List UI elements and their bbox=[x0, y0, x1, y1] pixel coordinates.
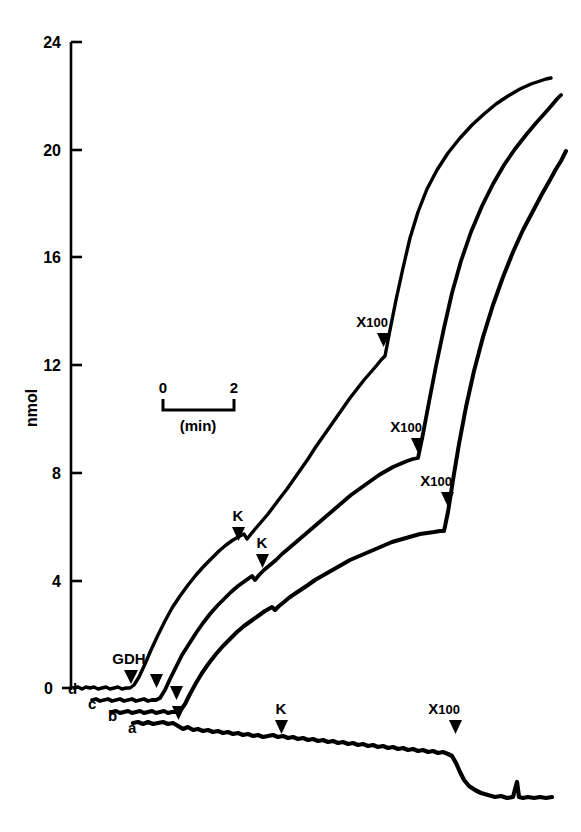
y-axis-title: nmol bbox=[23, 389, 40, 427]
x100-label-c-number: 100 bbox=[400, 420, 422, 435]
annotation-x100-c: X100 bbox=[390, 418, 424, 452]
y-tick-label-4: 4 bbox=[52, 573, 61, 590]
x100-label-d-number: 100 bbox=[366, 315, 388, 330]
gdh-arrow-c-icon bbox=[150, 674, 163, 688]
annotation-k-a: K bbox=[275, 700, 288, 734]
x100-label-c-prefix: X bbox=[390, 418, 400, 435]
x100-label-b: X100 bbox=[420, 472, 452, 489]
y-tick-label-12: 12 bbox=[43, 357, 61, 374]
k-label-d: K bbox=[233, 507, 244, 524]
x100-label-a-number: 100 bbox=[438, 702, 460, 717]
time-scalebar: 0 2 (min) bbox=[159, 379, 238, 434]
y-tick-label-16: 16 bbox=[43, 249, 61, 266]
scalebar-bracket bbox=[163, 399, 234, 410]
annotation-x100-d: X100 bbox=[356, 313, 390, 347]
trace-a-path bbox=[133, 722, 552, 798]
nmol-vs-time-chart: 24 20 16 12 8 4 0 nmol 0 2 (min) GDH bbox=[0, 0, 581, 832]
y-tick-label-20: 20 bbox=[43, 142, 61, 159]
curve-label-a: a bbox=[128, 719, 137, 736]
k-label-c: K bbox=[257, 534, 268, 551]
k-label-a: K bbox=[276, 700, 287, 717]
x100-label-d: X100 bbox=[356, 313, 388, 330]
trace-c bbox=[92, 95, 561, 701]
trace-d-path bbox=[74, 78, 551, 689]
x100-label-b-number: 100 bbox=[430, 474, 452, 489]
k-arrow-a-icon bbox=[275, 720, 288, 734]
annotation-x100-b: X100 bbox=[420, 472, 454, 506]
trace-d bbox=[74, 78, 551, 689]
y-tick-label-8: 8 bbox=[52, 465, 61, 482]
curve-label-b: b bbox=[108, 707, 117, 724]
x100-label-d-prefix: X bbox=[356, 313, 366, 330]
annotation-gdh: GDH bbox=[112, 650, 185, 720]
scalebar-label-start: 0 bbox=[159, 379, 167, 396]
x100-label-b-prefix: X bbox=[420, 472, 430, 489]
annotation-k-c: K bbox=[256, 534, 269, 568]
gdh-arrow-b-icon bbox=[170, 686, 183, 700]
y-axis: 24 20 16 12 8 4 0 nmol bbox=[23, 34, 82, 697]
x100-label-a: X100 bbox=[428, 700, 460, 717]
y-tick-label-24: 24 bbox=[43, 34, 61, 51]
trace-a bbox=[133, 722, 552, 798]
x100-label-c: X100 bbox=[390, 418, 422, 435]
scalebar-label-end: 2 bbox=[230, 379, 238, 396]
trace-c-path bbox=[92, 95, 561, 701]
annotation-x100-a: X100 bbox=[428, 700, 462, 734]
gdh-label: GDH bbox=[112, 650, 145, 667]
x100-label-a-prefix: X bbox=[428, 700, 438, 717]
x100-arrow-a-icon bbox=[449, 720, 462, 734]
curve-label-d: d bbox=[68, 680, 77, 697]
scalebar-unit-label: (min) bbox=[180, 417, 217, 434]
y-tick-label-0: 0 bbox=[44, 680, 53, 697]
curve-label-c: c bbox=[88, 695, 96, 712]
